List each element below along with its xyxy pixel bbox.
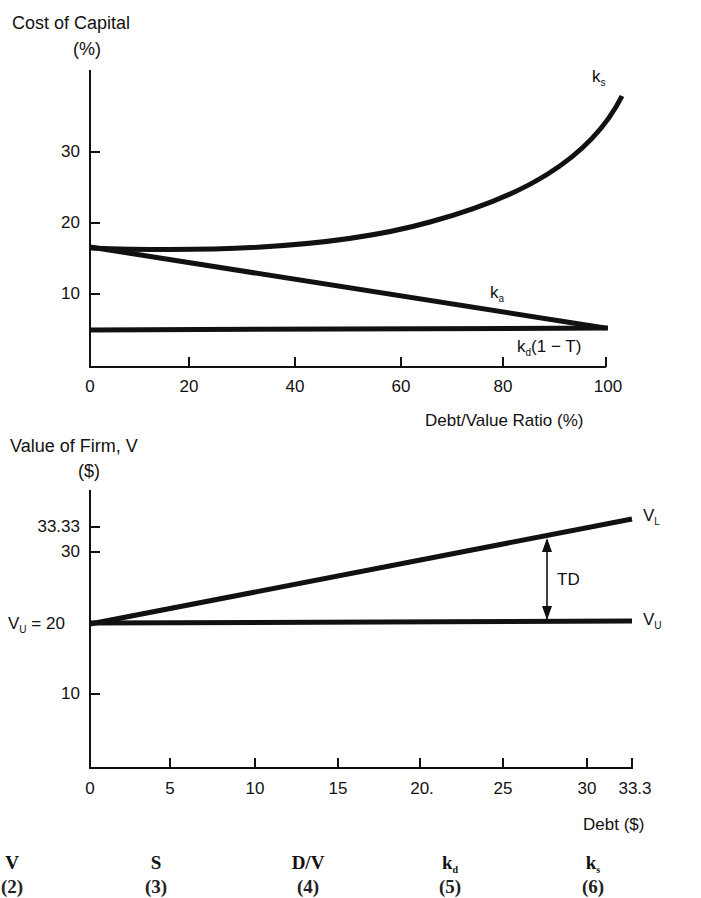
bottom-chart-axes <box>89 490 633 769</box>
col-number-2: (2) <box>0 876 42 898</box>
col-number-4: (4) <box>278 876 338 898</box>
series-vu <box>90 621 632 623</box>
top-ytick-30: 30 <box>10 143 80 160</box>
col-number-3: (3) <box>126 876 186 898</box>
bottom-xtick-5: 5 <box>145 780 195 797</box>
top-xtick-40: 40 <box>270 378 320 395</box>
bottom-xtick-0: 0 <box>65 780 115 797</box>
bottom-xtick-15: 15 <box>313 780 363 797</box>
bottom-chart-xlabel: Debt ($) <box>583 816 644 833</box>
top-ytick-10: 10 <box>10 285 80 302</box>
top-xtick-80: 80 <box>478 378 528 395</box>
label-ka: ka <box>490 284 504 304</box>
label-td: TD <box>557 571 580 588</box>
bottom-chart-ylabel-unit: ($) <box>78 462 100 480</box>
top-chart-xlabel: Debt/Value Ratio (%) <box>425 412 583 429</box>
label-ks: ks <box>592 68 606 88</box>
col-header-s: S <box>126 852 186 874</box>
bottom-ytick-10: 10 <box>10 685 80 702</box>
bottom-xtick-333: 33.3 <box>610 780 660 797</box>
col-header-v: V <box>0 852 42 874</box>
bottom-chart-ylabel: Value of Firm, V <box>10 437 138 455</box>
col-header-dv: D/V <box>278 852 338 874</box>
td-arrow <box>542 538 552 620</box>
col-header-kd: kd <box>420 852 480 875</box>
top-xtick-0: 0 <box>65 378 115 395</box>
col-header-ks: ks <box>563 852 623 875</box>
bottom-ytick-20: VU = 20 <box>8 615 65 635</box>
bottom-ytick-30: 30 <box>10 543 80 560</box>
label-vu: VU <box>643 611 662 631</box>
bottom-xtick-30: 30 <box>562 780 612 797</box>
bottom-xtick-10: 10 <box>230 780 280 797</box>
series-ks <box>90 96 622 250</box>
series-kd <box>90 328 608 330</box>
top-xtick-100: 100 <box>583 378 633 395</box>
top-chart-axes <box>89 70 606 368</box>
series-ka <box>90 247 605 328</box>
bottom-ytick-3333: 33.33 <box>10 518 80 535</box>
label-kd: kd(1 − T) <box>517 338 581 358</box>
col-number-5: (5) <box>420 876 480 898</box>
top-xtick-60: 60 <box>376 378 426 395</box>
col-number-6: (6) <box>563 876 623 898</box>
bottom-xtick-25: 25 <box>478 780 528 797</box>
bottom-xtick-20: 20. <box>397 780 447 797</box>
top-xtick-20: 20 <box>164 378 214 395</box>
label-vl: VL <box>643 507 660 527</box>
top-ytick-20: 20 <box>10 214 80 231</box>
